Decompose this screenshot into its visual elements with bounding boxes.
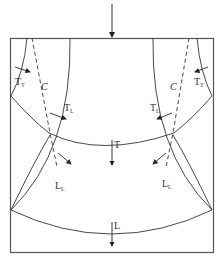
label-c-left: C — [41, 81, 48, 92]
label-center-l: L — [114, 220, 120, 231]
right-wing-line — [174, 96, 212, 133]
left-fan-line — [11, 135, 50, 210]
left-dashed-line — [32, 38, 57, 167]
left-tt-arrow — [15, 67, 30, 72]
left-inner-curve — [11, 38, 70, 210]
right-fan-line — [173, 135, 212, 210]
label-c-right: C — [170, 81, 177, 92]
label-ll-left: LL — [55, 180, 65, 192]
left-ll-arrow — [58, 153, 71, 164]
l-curve — [11, 210, 212, 234]
left-tl-arrow — [50, 113, 66, 119]
label-ll-right: LL — [162, 178, 172, 190]
left-wing-line — [11, 96, 49, 133]
label-center-t: T — [114, 139, 120, 150]
stress-diagram: TT TT C C TL TL LL LL T L — [0, 0, 224, 268]
label-tt-right: TT — [194, 76, 204, 88]
t-curve — [49, 133, 174, 146]
label-tt-left: TT — [15, 76, 25, 88]
label-tl-left: TL — [64, 102, 74, 114]
right-ll-arrow — [153, 153, 166, 164]
right-dashed-line — [166, 38, 189, 167]
label-tl-right: TL — [150, 102, 160, 114]
